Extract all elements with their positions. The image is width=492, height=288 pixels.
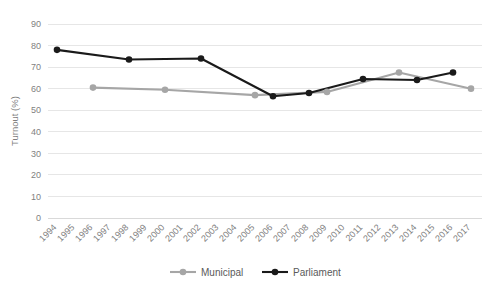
x-tick-label: 2012 bbox=[361, 222, 382, 243]
legend-marker-parliament bbox=[272, 269, 279, 276]
x-tick-label: 1995 bbox=[55, 222, 76, 243]
chart-canvas: 0102030405060708090 19941995199619971998… bbox=[0, 0, 492, 288]
x-tick-label: 1997 bbox=[91, 222, 112, 243]
series-line-municipal bbox=[93, 73, 471, 96]
data-point-parliament bbox=[450, 69, 457, 76]
x-tick-label: 2007 bbox=[271, 222, 292, 243]
data-point-municipal bbox=[252, 92, 259, 99]
legend-label-parliament: Parliament bbox=[293, 267, 341, 278]
y-tick-label: 90 bbox=[31, 19, 41, 29]
x-tick-label: 2015 bbox=[415, 222, 436, 243]
x-tick-label: 2004 bbox=[217, 222, 238, 243]
x-tick-label: 2016 bbox=[433, 222, 454, 243]
data-point-municipal bbox=[90, 84, 97, 91]
y-axis-title: Turnout (%) bbox=[9, 96, 20, 146]
x-tick-label: 2011 bbox=[344, 222, 365, 243]
legend-label-municipal: Municipal bbox=[201, 267, 243, 278]
x-tick-label: 1999 bbox=[127, 222, 148, 243]
data-point-parliament bbox=[126, 56, 133, 63]
x-tick-label: 2003 bbox=[199, 222, 220, 243]
x-tick-label: 2000 bbox=[145, 222, 166, 243]
x-tick-label: 2014 bbox=[397, 222, 418, 243]
x-tick-label: 2017 bbox=[451, 222, 472, 243]
x-tick-label: 2005 bbox=[235, 222, 256, 243]
x-tick-label: 2009 bbox=[307, 222, 328, 243]
y-tick-label: 80 bbox=[31, 41, 41, 51]
data-point-municipal bbox=[162, 86, 169, 93]
data-point-municipal bbox=[324, 89, 331, 96]
y-tick-label: 40 bbox=[31, 127, 41, 137]
y-tick-label: 20 bbox=[31, 170, 41, 180]
x-tick-label: 1994 bbox=[37, 222, 58, 243]
gridlines-group bbox=[48, 24, 482, 218]
x-tick-label: 2008 bbox=[289, 222, 310, 243]
data-point-parliament bbox=[198, 55, 205, 62]
y-tick-label: 30 bbox=[31, 149, 41, 159]
x-tick-label: 1996 bbox=[73, 222, 94, 243]
line-chart: 0102030405060708090 19941995199619971998… bbox=[0, 0, 492, 288]
data-point-municipal bbox=[396, 69, 403, 76]
y-tick-label: 0 bbox=[36, 213, 41, 223]
data-point-parliament bbox=[306, 90, 313, 97]
data-point-municipal bbox=[468, 85, 475, 92]
x-tick-label: 2006 bbox=[253, 222, 274, 243]
series-lines-group bbox=[57, 50, 471, 96]
x-tick-label: 2001 bbox=[163, 222, 184, 243]
x-tick-label: 2002 bbox=[181, 222, 202, 243]
x-tick-label: 2010 bbox=[325, 222, 346, 243]
data-point-parliament bbox=[270, 93, 277, 100]
y-tick-label: 10 bbox=[31, 192, 41, 202]
y-tick-label: 70 bbox=[31, 62, 41, 72]
x-axis-tick-labels: 1994199519961997199819992000200120022003… bbox=[37, 222, 472, 243]
data-point-parliament bbox=[414, 77, 421, 84]
chart-legend: MunicipalParliament bbox=[170, 267, 341, 278]
y-tick-label: 60 bbox=[31, 84, 41, 94]
y-axis-tick-labels: 0102030405060708090 bbox=[31, 19, 41, 223]
x-tick-label: 1998 bbox=[109, 222, 130, 243]
y-tick-label: 50 bbox=[31, 105, 41, 115]
data-point-parliament bbox=[360, 76, 367, 83]
data-point-parliament bbox=[54, 47, 61, 54]
legend-marker-municipal bbox=[180, 269, 187, 276]
x-tick-label: 2013 bbox=[379, 222, 400, 243]
